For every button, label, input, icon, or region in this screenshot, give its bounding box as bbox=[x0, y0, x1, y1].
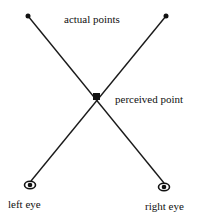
left-eye-label: left eye bbox=[8, 198, 41, 210]
perceived-point-marker bbox=[93, 93, 100, 100]
actual-points-label: actual points bbox=[64, 13, 120, 25]
perceived-point-label: perceived point bbox=[115, 93, 183, 105]
actual-point-right bbox=[164, 14, 169, 19]
right-eye-label: right eye bbox=[145, 200, 184, 212]
left-eye-icon bbox=[25, 181, 36, 189]
right-eye-icon bbox=[159, 183, 170, 191]
binocular-diagram bbox=[0, 0, 201, 219]
actual-point-left bbox=[26, 14, 31, 19]
